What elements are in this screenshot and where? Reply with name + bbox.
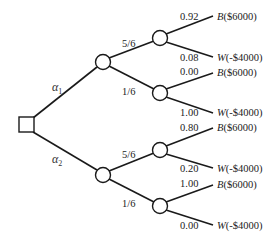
decision-node-square xyxy=(19,117,34,132)
outcome-label-6: W(-$4000) xyxy=(217,163,263,175)
outcome-prob-3: 0.00 xyxy=(180,66,198,77)
outcome-prob-7: 1.00 xyxy=(180,178,198,189)
outcome-prob-5: 0.80 xyxy=(180,122,198,133)
chance-node-a1-s1 xyxy=(153,31,168,46)
outcome-prob-6: 0.20 xyxy=(180,163,198,174)
chance-node-alpha2 xyxy=(96,168,111,183)
outcome-label-3: B($6000) xyxy=(217,67,257,79)
branch-prob-a1-1: 5/6 xyxy=(122,38,135,49)
chance-node-alpha1 xyxy=(96,55,111,70)
outcome-label-2: W(-$4000) xyxy=(217,52,263,64)
branch-prob-a1-2: 1/6 xyxy=(122,86,135,97)
outcome-prob-1: 0.92 xyxy=(180,11,198,22)
branch-prob-a2-2: 1/6 xyxy=(122,198,135,209)
outcome-label-5: B($6000) xyxy=(217,122,257,134)
outcome-label-8: W(-$4000) xyxy=(217,220,263,232)
edge-alpha2 xyxy=(33,132,97,170)
outcome-label-7: B($6000) xyxy=(217,179,257,191)
edge-alpha1 xyxy=(33,67,97,118)
outcome-label-4: W(-$4000) xyxy=(217,107,263,119)
chance-node-a2-s2 xyxy=(153,199,168,214)
decision-tree: α1 α2 5/6 1/6 5/6 1/6 0.92 0.08 0.00 1.0… xyxy=(0,0,279,244)
action-label-alpha1: α1 xyxy=(52,80,62,96)
action-label-alpha2: α2 xyxy=(52,152,62,168)
branch-prob-a2-1: 5/6 xyxy=(122,149,135,160)
chance-node-a2-s1 xyxy=(153,143,168,158)
outcome-prob-2: 0.08 xyxy=(180,52,198,63)
chance-node-a1-s2 xyxy=(153,86,168,101)
outcome-prob-8: 0.00 xyxy=(180,220,198,231)
outcome-prob-4: 1.00 xyxy=(180,107,198,118)
outcome-label-1: B($6000) xyxy=(217,11,257,23)
